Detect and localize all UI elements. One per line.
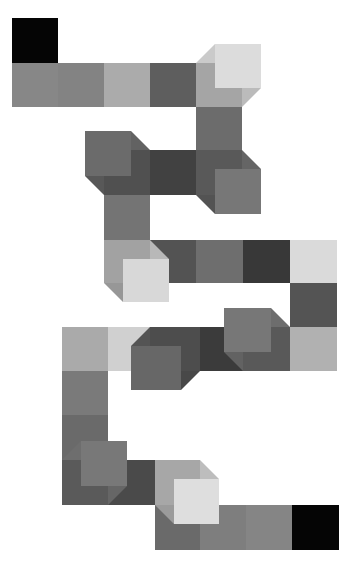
path-tile[interactable] bbox=[290, 327, 337, 371]
raised-cube[interactable] bbox=[62, 441, 127, 505]
cube-top-face bbox=[81, 441, 127, 486]
cube-top-face bbox=[123, 259, 169, 302]
end-tile[interactable] bbox=[292, 505, 339, 550]
path-tile[interactable] bbox=[243, 240, 290, 283]
path-tile[interactable] bbox=[246, 505, 292, 550]
cube-top-face bbox=[215, 44, 261, 88]
path-tile[interactable] bbox=[196, 240, 243, 283]
cube-top-face bbox=[174, 479, 219, 524]
path-tile[interactable] bbox=[62, 371, 108, 415]
raised-cube[interactable] bbox=[224, 308, 290, 371]
path-tile[interactable] bbox=[58, 63, 104, 107]
path-tile[interactable] bbox=[150, 150, 196, 195]
cube-top-face bbox=[215, 169, 261, 214]
start-tile[interactable] bbox=[12, 18, 58, 63]
raised-cube[interactable] bbox=[155, 460, 219, 524]
raised-cube[interactable] bbox=[196, 150, 261, 214]
cube-top-face bbox=[224, 308, 271, 352]
cube-top-face bbox=[131, 346, 181, 390]
path-tile[interactable] bbox=[104, 63, 150, 107]
path-tile[interactable] bbox=[104, 195, 150, 240]
path-tile[interactable] bbox=[150, 63, 196, 107]
path-tile[interactable] bbox=[62, 327, 108, 371]
path-tile[interactable] bbox=[290, 283, 337, 327]
puzzle-board bbox=[0, 0, 355, 568]
path-tile[interactable] bbox=[290, 240, 337, 283]
path-tile[interactable] bbox=[12, 63, 58, 107]
path-tile[interactable] bbox=[196, 107, 242, 150]
raised-cube[interactable] bbox=[131, 327, 200, 390]
cube-top-face bbox=[85, 131, 131, 176]
raised-cube[interactable] bbox=[85, 131, 150, 195]
raised-cube[interactable] bbox=[196, 44, 261, 107]
raised-cube[interactable] bbox=[104, 240, 169, 302]
